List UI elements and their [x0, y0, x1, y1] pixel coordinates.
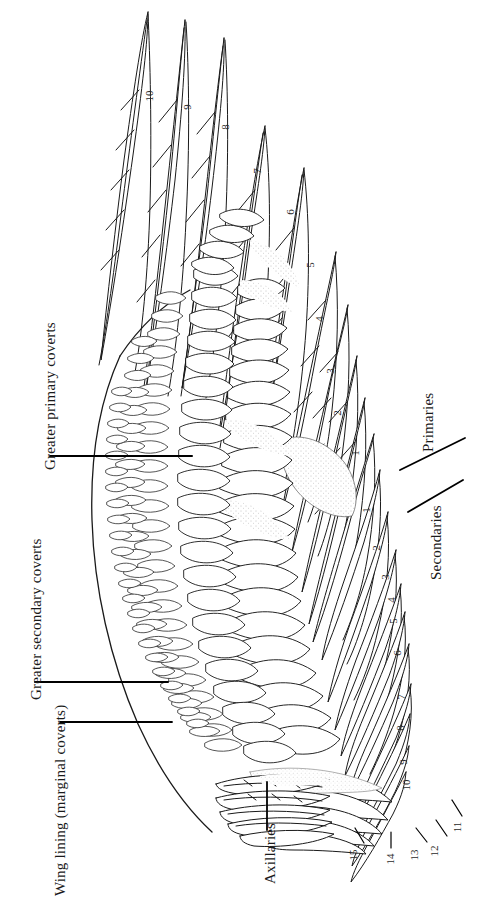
- secondary-callout-number-15: 15: [347, 850, 359, 861]
- primary-feather-number-8: 8: [219, 124, 231, 130]
- primary-feather-number-6: 6: [284, 209, 296, 215]
- tick-11: [452, 800, 462, 816]
- secondary-feather-number-10: 10: [400, 780, 412, 791]
- primary-feather-number-7: 7: [251, 168, 263, 174]
- label-primaries: Primaries: [420, 393, 437, 452]
- label-greater-primary-coverts: Greater primary coverts: [42, 322, 59, 470]
- secondary-feather-number-8: 8: [394, 725, 406, 731]
- tick-13: [416, 828, 427, 842]
- label-greater-secondary-coverts: Greater secondary coverts: [28, 538, 45, 700]
- primary-feather-number-5: 5: [304, 262, 316, 268]
- wing-linework: [35, 12, 465, 882]
- secondary-feather-number-1: 1: [360, 507, 372, 513]
- label-wing-lining: Wing lining (marginal coverts): [52, 705, 69, 896]
- secondary-callout-number-11: 11: [451, 822, 463, 833]
- secondary-feather-number-9: 9: [397, 759, 409, 765]
- primary-feather-number-10: 10: [143, 91, 155, 102]
- secondary-callout-number-14: 14: [384, 854, 396, 865]
- secondary-feather-number-5: 5: [387, 618, 399, 624]
- primary-feather-number-4: 4: [313, 316, 325, 322]
- secondary-feather-number-3: 3: [379, 574, 391, 580]
- wing-illustration: [0, 0, 487, 900]
- secondary-feather-number-6: 6: [391, 650, 403, 656]
- tick-12: [436, 820, 447, 836]
- primary-feather-number-2: 2: [331, 410, 343, 416]
- label-secondaries: Secondaries: [428, 505, 445, 580]
- secondary-callout-number-13: 13: [408, 850, 420, 861]
- wing-anatomy-figure: Greater primary coverts Greater secondar…: [0, 0, 487, 900]
- primary-feather-number-3: 3: [324, 368, 336, 374]
- label-axillaries: Axillaries: [262, 823, 279, 884]
- secondary-feather-number-4: 4: [385, 597, 397, 603]
- secondary-feather-number-2: 2: [370, 545, 382, 551]
- primary-feather-number-9: 9: [181, 104, 193, 110]
- secondary-callout-number-12: 12: [428, 846, 440, 857]
- primary-feather-number-1: 1: [349, 450, 361, 456]
- secondary-feather-number-7: 7: [395, 694, 407, 700]
